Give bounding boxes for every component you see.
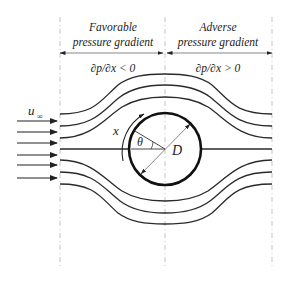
streamline-top-2 (60, 85, 272, 126)
cylinder-flow-diagram: Favorable pressure gradient ∂p/∂x < 0 Ad… (0, 0, 287, 286)
streamline-bottom-3 (60, 184, 272, 224)
region-boundaries (60, 17, 272, 268)
streamline-top-3 (60, 97, 272, 138)
theta-label: θ (137, 135, 143, 149)
theta-angle-arc (151, 142, 153, 149)
favorable-title-line1: Favorable (88, 21, 137, 33)
freestream-arrows (17, 121, 57, 178)
freestream-velocity-subscript: ∞ (37, 112, 43, 121)
arc-length-label: x (112, 123, 119, 138)
favorable-condition: ∂p/∂x < 0 (91, 62, 136, 75)
adverse-condition: ∂p/∂x > 0 (196, 62, 241, 75)
diameter-label: D (171, 143, 182, 158)
streamlines (60, 74, 272, 224)
streamline-bottom-1 (60, 160, 272, 201)
favorable-title-line2: pressure gradient (72, 36, 154, 49)
freestream-velocity-label: u (28, 103, 35, 118)
streamline-bottom-2 (60, 172, 272, 213)
adverse-title-line2: pressure gradient (177, 36, 259, 49)
streamline-top-1 (60, 74, 272, 114)
adverse-title-line1: Adverse (198, 21, 236, 33)
